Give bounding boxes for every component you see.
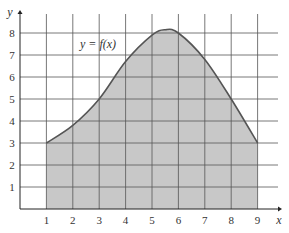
x-tick-label: 9: [255, 214, 261, 226]
x-tick-label: 6: [176, 214, 182, 226]
x-tick-label: 7: [202, 214, 208, 226]
x-tick-label: 8: [228, 214, 234, 226]
y-tick-label: 6: [9, 71, 15, 83]
y-tick-label: 7: [9, 49, 15, 61]
y-tick-label: 1: [9, 181, 15, 193]
y-tick-label: 3: [9, 137, 15, 149]
area-chart: 12345678912345678xyy = f(x): [0, 0, 289, 233]
function-annotation: y = f(x): [79, 37, 116, 51]
x-tick-label: 5: [149, 214, 155, 226]
y-tick-label: 2: [9, 159, 15, 171]
chart-container: 12345678912345678xyy = f(x): [0, 0, 289, 233]
y-tick-label: 5: [9, 93, 15, 105]
x-tick-label: 3: [96, 214, 102, 226]
y-tick-label: 4: [9, 115, 15, 127]
x-tick-label: 4: [123, 214, 129, 226]
y-axis-label: y: [6, 5, 13, 19]
x-axis-label: x: [275, 213, 282, 227]
x-axis-arrow-icon: [278, 207, 282, 212]
y-tick-label: 8: [9, 27, 15, 39]
y-axis-arrow-icon: [18, 10, 23, 14]
x-tick-label: 2: [70, 214, 76, 226]
x-tick-label: 1: [44, 214, 50, 226]
